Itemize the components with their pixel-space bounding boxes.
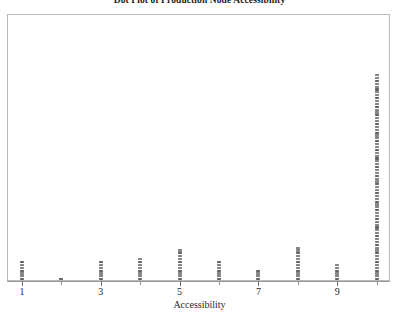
dot-marker — [375, 152, 379, 154]
dot-marker — [375, 244, 379, 246]
dot-marker — [375, 241, 379, 243]
dot-marker — [217, 264, 221, 266]
dot-marker — [375, 270, 379, 272]
dot-marker — [375, 175, 379, 177]
dot-marker — [335, 272, 339, 274]
dot-marker — [296, 255, 300, 257]
dot-marker — [375, 155, 379, 157]
dot-marker — [256, 272, 260, 274]
dot-marker — [178, 261, 182, 263]
dot-marker — [375, 258, 379, 260]
dot-marker — [375, 221, 379, 223]
dot-plot-figure: Dot Plot of Production Node Accessibilit… — [0, 0, 399, 314]
dot-marker — [375, 129, 379, 131]
dot-marker — [178, 258, 182, 260]
dot-marker — [375, 272, 379, 274]
dot-marker — [375, 169, 379, 171]
dot-marker — [375, 126, 379, 128]
dot-marker — [375, 74, 379, 76]
dot-marker — [375, 186, 379, 188]
x-tick-minor — [298, 281, 299, 285]
dot-marker — [178, 275, 182, 277]
dot-marker — [375, 189, 379, 191]
dot-marker — [296, 267, 300, 269]
dot-marker — [375, 114, 379, 116]
dot-marker — [375, 249, 379, 251]
dot-marker — [296, 272, 300, 274]
dot-column — [295, 247, 300, 282]
dot-marker — [375, 160, 379, 162]
dot-marker — [375, 123, 379, 125]
dot-marker — [59, 278, 63, 280]
dot-marker — [178, 249, 182, 251]
plot-area — [7, 14, 390, 281]
dot-marker — [375, 80, 379, 82]
dot-marker — [375, 143, 379, 145]
dot-marker — [375, 201, 379, 203]
x-axis-line — [7, 281, 390, 282]
dot-marker — [375, 140, 379, 142]
dot-marker — [375, 229, 379, 231]
dot-marker — [296, 258, 300, 260]
dot-marker — [256, 270, 260, 272]
dot-marker — [375, 215, 379, 217]
dot-column — [335, 264, 340, 281]
dot-marker — [375, 264, 379, 266]
dot-marker — [178, 278, 182, 280]
dot-marker — [99, 267, 103, 269]
dot-marker — [138, 264, 142, 266]
dot-marker — [375, 111, 379, 113]
dot-marker — [217, 270, 221, 272]
dot-marker — [335, 267, 339, 269]
dot-marker — [375, 149, 379, 151]
x-tick-label: 5 — [177, 286, 182, 297]
dot-marker — [375, 77, 379, 79]
dot-marker — [375, 106, 379, 108]
dot-marker — [375, 192, 379, 194]
dot-marker — [375, 137, 379, 139]
dot-marker — [375, 86, 379, 88]
dot-marker — [375, 238, 379, 240]
dot-marker — [138, 258, 142, 260]
dot-marker — [256, 275, 260, 277]
dot-marker — [375, 267, 379, 269]
dot-marker — [375, 218, 379, 220]
dot-marker — [375, 198, 379, 200]
dot-marker — [375, 166, 379, 168]
x-tick-minor — [219, 281, 220, 285]
dot-marker — [296, 247, 300, 249]
dot-marker — [20, 275, 24, 277]
dot-marker — [375, 247, 379, 249]
dot-marker — [296, 264, 300, 266]
dot-marker — [375, 212, 379, 214]
dot-marker — [20, 272, 24, 274]
dot-marker — [375, 261, 379, 263]
dot-marker — [138, 272, 142, 274]
x-tick-label: 1 — [20, 286, 25, 297]
dot-marker — [217, 267, 221, 269]
x-tick-minor — [377, 281, 378, 285]
dot-marker — [138, 267, 142, 269]
dot-marker — [99, 272, 103, 274]
dot-marker — [375, 195, 379, 197]
dot-marker — [375, 146, 379, 148]
dot-marker — [375, 88, 379, 90]
dot-marker — [296, 275, 300, 277]
dot-marker — [138, 278, 142, 280]
dot-marker — [178, 255, 182, 257]
dot-marker — [296, 270, 300, 272]
dot-marker — [256, 278, 260, 280]
x-tick-label: 3 — [98, 286, 103, 297]
dot-marker — [375, 100, 379, 102]
dot-marker — [217, 261, 221, 263]
dot-marker — [217, 272, 221, 274]
dot-marker — [99, 278, 103, 280]
dot-marker — [217, 278, 221, 280]
dot-marker — [375, 134, 379, 136]
dot-marker — [335, 264, 339, 266]
dot-marker — [375, 120, 379, 122]
dot-column — [20, 261, 25, 281]
dot-marker — [99, 270, 103, 272]
dot-marker — [375, 232, 379, 234]
dot-column — [256, 270, 261, 282]
